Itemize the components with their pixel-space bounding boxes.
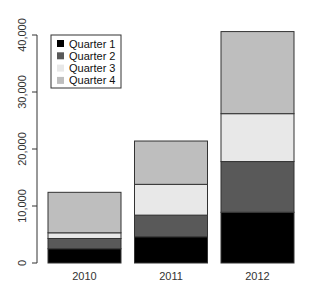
bar-stack-2012	[221, 32, 294, 263]
x-tick-label: 2012	[245, 270, 269, 282]
legend-label: Quarter 2	[69, 50, 115, 62]
legend-swatch	[57, 40, 64, 47]
bar-segment-2011-q1	[135, 237, 208, 263]
bar-segment-2010-q1	[48, 249, 121, 263]
bar-segment-2010-q3	[48, 233, 121, 239]
legend-swatch	[57, 52, 64, 59]
bar-segment-2012-q1	[221, 212, 294, 263]
y-tick-label: 40,000	[16, 18, 28, 52]
bar-segment-2012-q3	[221, 114, 294, 162]
y-tick-label: 20,000	[16, 132, 28, 166]
legend-swatch	[57, 65, 64, 72]
legend-label: Quarter 4	[69, 74, 115, 86]
bar-segment-2010-q4	[48, 192, 121, 232]
legend-label: Quarter 1	[69, 38, 115, 50]
bar-stack-2010	[48, 192, 121, 263]
y-tick-label: 30,000	[16, 75, 28, 109]
bar-segment-2010-q2	[48, 238, 121, 248]
bar-segment-2011-q3	[135, 184, 208, 215]
y-tick-label: 10,000	[16, 189, 28, 223]
stacked-bar-chart: 010,00020,00030,00040,000 201020112012 Q…	[0, 0, 313, 294]
legend: Quarter 1Quarter 2Quarter 3Quarter 4	[51, 35, 121, 88]
legend-swatch	[57, 77, 64, 84]
x-tick-label: 2010	[72, 270, 96, 282]
bar-segment-2011-q4	[135, 141, 208, 184]
bar-segment-2012-q2	[221, 162, 294, 213]
y-tick-label: 0	[16, 260, 28, 266]
bar-segment-2012-q4	[221, 32, 294, 114]
bar-segment-2011-q2	[135, 215, 208, 237]
bar-stack-2011	[135, 141, 208, 263]
y-axis: 010,00020,00030,00040,000	[16, 18, 37, 266]
x-tick-label: 2011	[159, 270, 183, 282]
legend-label: Quarter 3	[69, 62, 115, 74]
x-axis-labels: 201020112012	[72, 270, 269, 282]
